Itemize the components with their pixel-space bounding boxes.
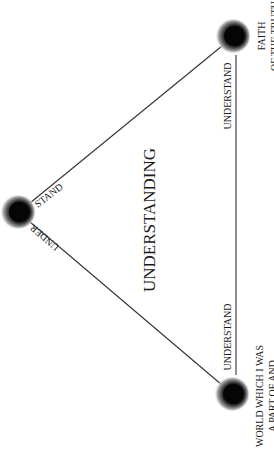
node-top-right [215,18,251,54]
node-label-bottom-right-line2: A PART OF AND [267,360,274,432]
node-label-bottom-right-line1: WORLD WHICH I WAS [254,345,265,447]
edge-label-left-upper: STAND [32,181,64,210]
node-label-top-right-line1: FAITH [256,22,267,51]
edge-label-left-lower: UNDER [27,222,61,253]
center-label: UNDERSTANDING [140,148,159,292]
node-label-top-right-line2: OF THE TRUTH [269,1,274,71]
edge-label-top: UNDERSTAND [222,63,233,130]
node-left [0,194,36,230]
understanding-triangle-diagram: UNDERSTANDING UNDERSTAND UNDERSTAND STAN… [0,0,274,451]
edge-label-bottom: UNDERSTAND [222,304,233,371]
node-bottom-right [214,376,250,412]
edge-top-right-to-left [30,46,222,203]
